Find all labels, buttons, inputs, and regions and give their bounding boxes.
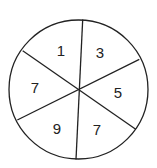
sector-label-top-right: 3 bbox=[96, 44, 104, 61]
sector-label-top-left: 1 bbox=[57, 42, 65, 59]
sector-label-right: 5 bbox=[114, 84, 122, 101]
sector-label-left: 7 bbox=[31, 79, 39, 96]
sector-label-bottom-left: 9 bbox=[53, 120, 61, 137]
sector-label-bottom-right: 7 bbox=[93, 121, 101, 138]
spinner-diagram: 1 3 5 7 9 7 bbox=[0, 0, 157, 168]
